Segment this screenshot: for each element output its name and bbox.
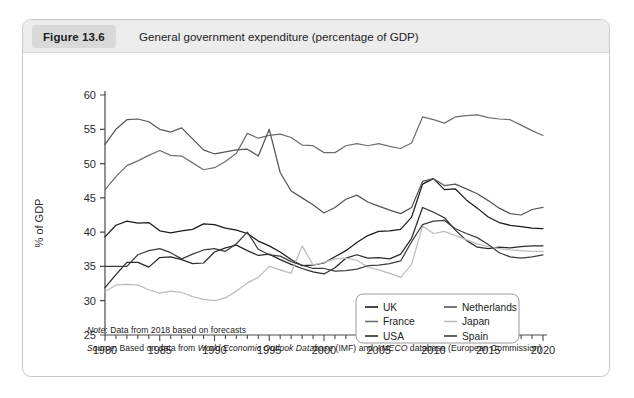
y-axis: 2530354045505560	[84, 89, 105, 341]
y-axis-title: % of GDP	[33, 199, 45, 248]
source-italic-1: World Economic Outlook Database	[198, 343, 333, 353]
legend-label-usa[interactable]: USA	[383, 331, 404, 342]
figure-header: Figure 13.6 General government expenditu…	[23, 20, 609, 53]
source-prefix: : Based on data from	[115, 343, 198, 353]
series-line-usa	[105, 207, 543, 287]
series-line-netherlands	[105, 119, 543, 215]
figure-title: General government expenditure (percenta…	[139, 20, 601, 53]
figure-source: Source: Based on data from World Economi…	[87, 343, 542, 353]
series-lines	[105, 115, 543, 301]
y-tick-label: 60	[84, 89, 96, 101]
y-tick-label: 55	[84, 123, 96, 135]
figure-note: Note: Data from 2018 based on forecasts	[87, 325, 246, 335]
note-text: : Data from 2018 based on forecasts	[105, 325, 246, 335]
y-tick-label: 40	[84, 226, 96, 238]
source-mid: (IMF) and	[333, 343, 376, 353]
chart-legend[interactable]: UKNetherlandsFranceJapanUSASpain	[356, 294, 519, 343]
y-tick-label: 35	[84, 260, 96, 272]
y-tick-label: 30	[84, 295, 96, 307]
y-tick-label: 50	[84, 158, 96, 170]
figure-number-badge: Figure 13.6	[32, 25, 116, 48]
legend-label-netherlands[interactable]: Netherlands	[462, 302, 517, 313]
legend-label-japan[interactable]: Japan	[462, 316, 490, 327]
series-line-france	[105, 115, 543, 190]
legend-label-uk[interactable]: UK	[383, 302, 397, 313]
note-label: Note	[87, 325, 105, 335]
source-suffix: database (European Commission)	[407, 343, 541, 353]
legend-label-spain[interactable]: Spain	[462, 331, 488, 342]
legend-label-france[interactable]: France	[383, 316, 415, 327]
y-tick-label: 45	[84, 192, 96, 204]
source-label: Source	[87, 343, 115, 353]
source-italic-2: AMECO	[376, 343, 408, 353]
figure-card: Figure 13.6 General government expenditu…	[22, 19, 610, 377]
